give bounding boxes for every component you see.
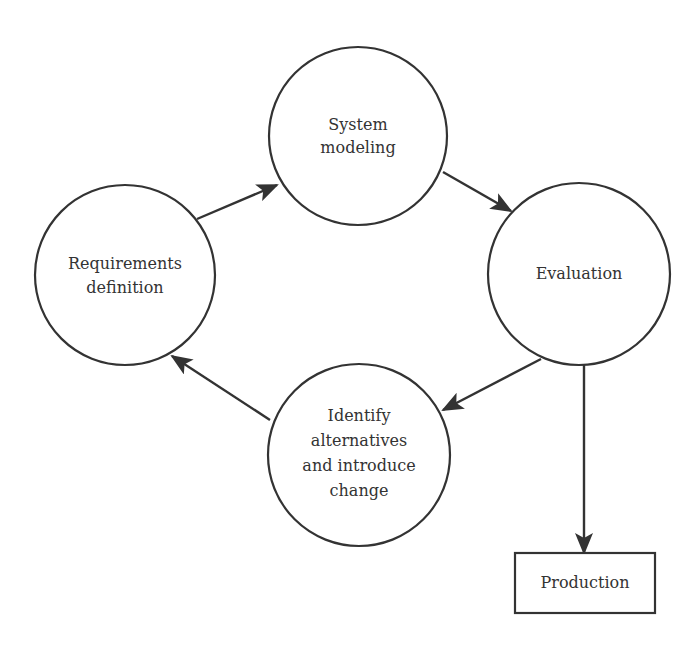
- node-identify-label-line-2: alternatives: [311, 431, 407, 450]
- node-requirements-label-line-1: Requirements: [68, 254, 182, 273]
- edge-requirements-to-system-modeling: [197, 185, 277, 219]
- node-production: Production: [515, 553, 655, 613]
- node-system-modeling-label-line-1: System: [328, 115, 387, 134]
- node-identify-alternatives: Identify alternatives and introduce chan…: [268, 364, 450, 546]
- edge-identify-to-requirements: [172, 356, 270, 420]
- diagram-canvas: System modeling Requirements definition …: [0, 0, 696, 646]
- node-identify-label-line-4: change: [330, 481, 389, 500]
- node-identify-label-line-1: Identify: [328, 406, 391, 425]
- node-requirements-circle: [35, 185, 215, 365]
- node-requirements-label-line-2: definition: [86, 278, 163, 297]
- edge-evaluation-to-identify: [443, 359, 541, 410]
- node-system-modeling: System modeling: [269, 47, 447, 225]
- node-production-label: Production: [540, 573, 629, 592]
- node-requirements-definition: Requirements definition: [35, 185, 215, 365]
- node-identify-circle: [268, 364, 450, 546]
- edge-system-modeling-to-evaluation: [443, 172, 511, 211]
- node-identify-label-line-3: and introduce: [302, 456, 415, 475]
- node-evaluation: Evaluation: [488, 183, 670, 365]
- node-system-modeling-label-line-2: modeling: [320, 138, 395, 157]
- node-system-modeling-circle: [269, 47, 447, 225]
- node-evaluation-label: Evaluation: [536, 264, 623, 283]
